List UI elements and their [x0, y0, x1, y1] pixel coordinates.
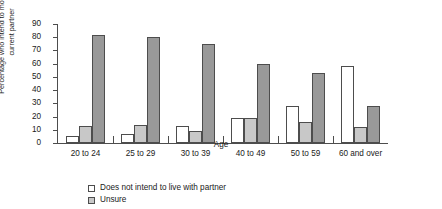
- legend-item: Does not intend to live with partner: [88, 182, 226, 194]
- bar: [341, 66, 354, 143]
- y-axis-tick-label: 80: [21, 33, 41, 41]
- y-axis-tick-label: 60: [21, 60, 41, 68]
- bar: [299, 122, 312, 143]
- bar: [92, 35, 105, 143]
- x-axis-tick-label: 60 and over: [339, 150, 382, 158]
- bar: [312, 73, 325, 143]
- legend-swatch: [88, 185, 95, 192]
- y-axis-tick: [53, 37, 57, 38]
- bar-group: [333, 24, 388, 143]
- x-axis-tick-label: 30 to 39: [181, 150, 211, 158]
- y-axis-tick-label: 90: [21, 20, 41, 28]
- x-axis-tick-label: 20 to 24: [71, 150, 101, 158]
- x-axis-tick-label: 40 to 49: [236, 150, 266, 158]
- y-axis-tick: [53, 90, 57, 91]
- plot-area: 0102030405060708090 20 to 2425 to 2930 t…: [58, 24, 388, 143]
- y-axis-tick: [53, 24, 57, 25]
- legend-label: Unsure: [100, 196, 126, 204]
- y-axis-tick: [53, 130, 57, 131]
- y-axis-tick-label: 10: [21, 126, 41, 134]
- y-axis-tick-label: 20: [21, 113, 41, 121]
- bar-group: [58, 24, 113, 143]
- bar: [231, 118, 244, 143]
- y-axis-tick: [53, 117, 57, 118]
- y-axis-tick: [53, 77, 57, 78]
- y-axis-tick-label: 50: [21, 73, 41, 81]
- legend-item: Unsure: [88, 194, 226, 206]
- bar: [257, 64, 270, 143]
- y-axis-tick: [53, 103, 57, 104]
- bar-group: [278, 24, 333, 143]
- x-axis-tick-label: 50 to 59: [291, 150, 321, 158]
- legend-swatch: [88, 197, 95, 204]
- x-axis-title: Age: [0, 141, 442, 149]
- legend-label: Does not intend to live with partner: [100, 184, 226, 192]
- y-axis-tick-label: 30: [21, 99, 41, 107]
- bar: [286, 106, 299, 143]
- bar-group: [113, 24, 168, 143]
- y-axis-tick-label: 70: [21, 46, 41, 54]
- y-axis-tick: [53, 64, 57, 65]
- y-axis-tick: [53, 50, 57, 51]
- bar-group: [223, 24, 278, 143]
- bar: [147, 37, 160, 143]
- y-axis-tick-label: 40: [21, 86, 41, 94]
- bar: [367, 106, 380, 143]
- bar: [244, 118, 257, 143]
- chart-legend: Does not intend to live with partnerUnsu…: [88, 182, 226, 206]
- bar: [202, 44, 215, 143]
- bar-group: [168, 24, 223, 143]
- x-axis-tick-label: 25 to 29: [126, 150, 156, 158]
- bar-chart: Percentage who intend to move in with cu…: [0, 0, 442, 209]
